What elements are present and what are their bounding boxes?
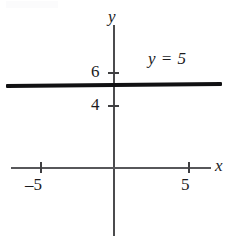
y-tick-mark-6 — [108, 72, 119, 74]
y-axis-label: y — [108, 8, 116, 25]
x-tick-label-5: 5 — [181, 176, 190, 193]
y-tick-label-4: 4 — [91, 96, 100, 113]
y-axis-line — [113, 25, 115, 236]
x-tick-mark-5 — [188, 162, 190, 173]
y-tick-mark-4 — [108, 105, 119, 107]
y-tick-label-6: 6 — [91, 63, 100, 80]
x-tick-label-minus-5: –5 — [25, 176, 42, 193]
x-axis-label: x — [215, 157, 223, 174]
equation-annotation: y = 5 — [148, 50, 187, 67]
x-tick-mark-minus-5 — [40, 162, 42, 173]
graph-figure: y x 6 4 –5 5 y = 5 — [0, 0, 232, 236]
scan-artifact — [6, 1, 58, 8]
